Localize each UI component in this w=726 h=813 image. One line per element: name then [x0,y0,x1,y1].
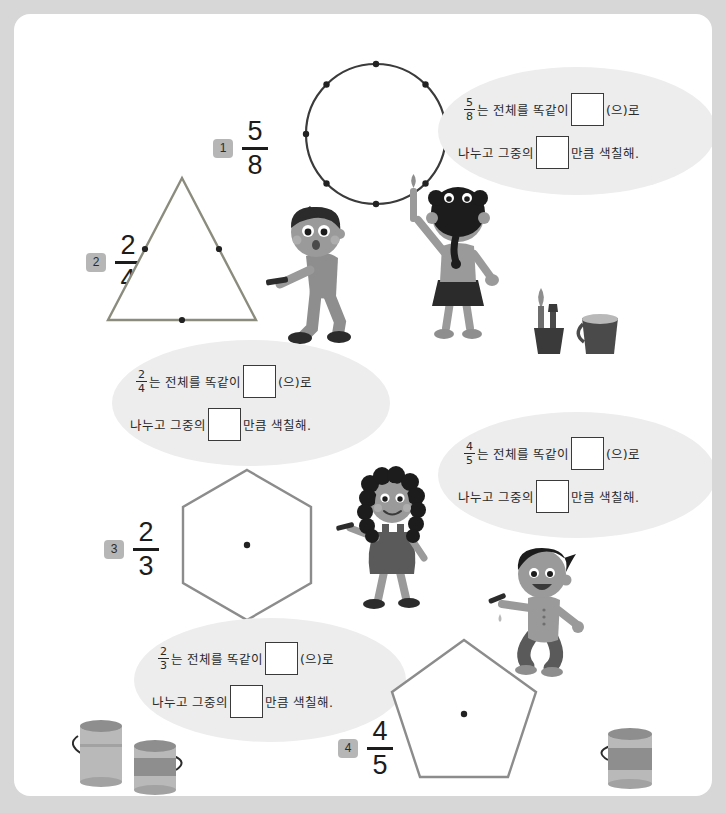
fraction-2-3: 2 3 [133,519,159,580]
illustration-water-bucket [576,312,624,358]
bubble-fraction: 4 5 [464,441,475,466]
bubble-text-before: 는 전체를 똑같이 [149,372,241,391]
bubble-text-after: (으)로 [300,649,334,668]
bubble-text-before: 는 전체를 똑같이 [171,649,263,668]
answer-box-denominator[interactable] [571,437,604,470]
answer-box-numerator[interactable] [536,480,569,513]
bubble-fraction-numerator: 2 [160,646,167,657]
problem-4-label: 4 4 5 [338,718,393,779]
bubble-fraction-denominator: 4 [138,383,145,394]
bubble-line-2: 나누고 그중의 만큼 색칠해. [152,685,406,718]
bubble-line-1: 5 8 는 전체를 똑같이 (으)로 [464,93,712,126]
illustration-girl-with-braids-painting [406,184,516,349]
answer-box-numerator[interactable] [208,408,241,441]
bubble-fraction-denominator: 3 [160,660,167,671]
problem-3-label: 3 2 3 [104,519,159,580]
bubble-text-after: (으)로 [606,444,640,463]
bubble-text-before-2: 나누고 그중의 [130,415,206,434]
answer-box-numerator[interactable] [230,685,263,718]
bubble-fraction-denominator: 8 [466,111,473,122]
worksheet-page: 1 5 8 5 8 는 전체 [14,14,712,796]
bubble-text-after-2: 만큼 색칠해. [265,692,333,711]
fraction-numerator: 4 [372,718,387,746]
shape-hexagon-with-center[interactable] [178,466,316,624]
bubble-fraction: 2 4 [136,369,147,394]
fraction-numerator: 2 [138,519,153,547]
bubble-fraction-numerator: 4 [466,441,473,452]
answer-box-denominator[interactable] [265,642,298,675]
answer-box-denominator[interactable] [243,365,276,398]
illustration-girl-curly-hair [342,466,446,618]
bubble-line-1: 4 5 는 전체를 똑같이 (으)로 [464,437,712,470]
bubble-5-8: 5 8 는 전체를 똑같이 (으)로 나누고 그중의 만큼 색칠해. [438,67,712,195]
bubble-line-2: 나누고 그중의 만큼 색칠해. [458,136,712,169]
bubble-fraction-denominator: 5 [466,455,473,466]
bubble-4-5: 4 5 는 전체를 똑같이 (으)로 나누고 그중의 만큼 색칠해. [438,412,712,538]
bubble-text-after-2: 만큼 색칠해. [243,415,311,434]
bubble-text-before-2: 나누고 그중의 [458,487,534,506]
bubble-text-before-2: 나누고 그중의 [458,143,534,162]
fraction-denominator: 3 [138,552,153,580]
fraction-5-8: 5 8 [242,118,268,179]
bubble-fraction: 2 3 [158,646,169,671]
bubble-line-1: 2 4 는 전체를 똑같이 (으)로 [136,365,390,398]
bubble-fraction-numerator: 5 [466,97,473,108]
bubble-text-after-2: 만큼 색칠해. [571,487,639,506]
answer-box-numerator[interactable] [536,136,569,169]
fraction-denominator: 5 [372,751,387,779]
illustration-boy-with-brush-dark-hair [266,204,386,349]
bubble-line-2: 나누고 그중의 만큼 색칠해. [458,480,712,513]
fraction-numerator: 5 [247,118,262,146]
problem-number-badge: 1 [213,139,233,158]
bubble-2-4: 2 4 는 전체를 똑같이 (으)로 나누고 그중의 만큼 색칠해. [112,340,390,466]
illustration-paint-can-right [596,722,662,794]
bubble-line-2: 나누고 그중의 만큼 색칠해. [130,408,390,441]
answer-box-denominator[interactable] [571,93,604,126]
bubble-text-before: 는 전체를 똑같이 [477,100,569,119]
illustration-brush-cup [526,286,572,356]
bubble-text-before: 는 전체를 똑같이 [477,444,569,463]
bubble-text-after-2: 만큼 색칠해. [571,143,639,162]
bubble-fraction-numerator: 2 [138,369,145,380]
shape-triangle-with-midpoints[interactable] [102,172,262,327]
bubble-line-1: 2 3 는 전체를 똑같이 (으)로 [158,642,406,675]
problem-1-label: 1 5 8 [213,118,268,179]
illustration-paint-can-tall-left [70,714,132,794]
bubble-text-before-2: 나누고 그중의 [152,692,228,711]
bubble-fraction: 5 8 [464,97,475,122]
illustration-paint-can-short-left [126,736,190,796]
bubble-text-after: (으)로 [278,372,312,391]
problem-number-badge: 4 [338,739,358,758]
bubble-text-after: (으)로 [606,100,640,119]
illustration-jumping-boy-with-brush [486,548,606,684]
problem-number-badge: 3 [104,540,124,559]
